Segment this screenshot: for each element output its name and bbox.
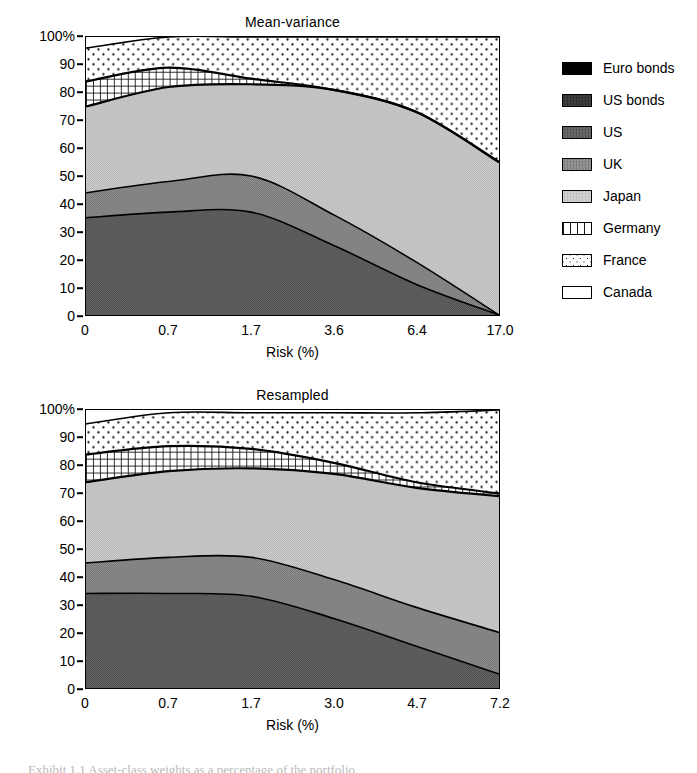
- y-tick-label: 10: [59, 280, 75, 296]
- y-tick-label: 20: [59, 252, 75, 268]
- y-tick-label: 80: [59, 457, 75, 473]
- legend-item-japan[interactable]: Japan: [562, 180, 697, 212]
- plot-area-mean-variance: [85, 36, 500, 316]
- x-axis-label-resampled: Risk (%): [85, 717, 500, 733]
- y-tick-mark: [77, 175, 83, 177]
- legend-label-france: France: [603, 252, 647, 268]
- y-tick-mark: [77, 688, 83, 690]
- legend-label-euro_bonds: Euro bonds: [603, 60, 675, 76]
- y-tick-mark: [77, 408, 83, 410]
- y-tick-mark: [77, 287, 83, 289]
- legend-label-canada: Canada: [603, 284, 652, 300]
- x-tick-label: 7.2: [490, 695, 509, 711]
- y-tick-label: 60: [59, 140, 75, 156]
- y-tick-mark: [77, 35, 83, 37]
- legend-label-japan: Japan: [603, 188, 641, 204]
- y-tick-label: 10: [59, 653, 75, 669]
- legend-swatch-france: [562, 254, 592, 267]
- legend-label-us: US: [603, 124, 622, 140]
- legend-swatch-canada: [562, 286, 592, 299]
- y-tick-mark: [77, 520, 83, 522]
- y-tick-mark: [77, 119, 83, 121]
- x-axis-mean-variance: 00.71.73.66.417.0: [85, 320, 500, 342]
- legend-item-canada[interactable]: Canada: [562, 276, 697, 308]
- y-tick-mark: [77, 632, 83, 634]
- y-tick-label: 40: [59, 196, 75, 212]
- y-tick-label: 40: [59, 569, 75, 585]
- legend-label-uk: UK: [603, 156, 622, 172]
- y-tick-label: 70: [59, 485, 75, 501]
- y-tick-mark: [77, 464, 83, 466]
- chart-mean-variance: Mean-variance 0102030405060708090100% 00…: [0, 14, 540, 379]
- x-tick-label: 6.4: [407, 322, 426, 338]
- figure-caption: Exhibit 1.1 Asset-class weights as a per…: [28, 762, 668, 773]
- legend-label-germany: Germany: [603, 220, 661, 236]
- x-tick-label: 1.7: [241, 695, 260, 711]
- legend-swatch-uk: [562, 158, 592, 171]
- legend-swatch-us: [562, 126, 592, 139]
- y-axis-mean-variance: 0102030405060708090100%: [0, 36, 83, 316]
- legend-item-uk[interactable]: UK: [562, 148, 697, 180]
- y-tick-label: 30: [59, 224, 75, 240]
- y-tick-mark: [77, 63, 83, 65]
- y-tick-label: 90: [59, 429, 75, 445]
- legend-swatch-us_bonds: [562, 94, 592, 107]
- y-tick-mark: [77, 548, 83, 550]
- chart-title-resampled: Resampled: [85, 387, 500, 407]
- x-tick-label: 3.0: [324, 695, 343, 711]
- y-tick-label: 60: [59, 513, 75, 529]
- legend-swatch-japan: [562, 190, 592, 203]
- y-tick-label: 70: [59, 112, 75, 128]
- chart-resampled: Resampled 0102030405060708090100% 00.71.…: [0, 387, 540, 752]
- y-tick-label: 0: [67, 681, 75, 697]
- plot-frame-mean-variance: [85, 36, 500, 316]
- y-tick-label: 0: [67, 308, 75, 324]
- chart-title-mean-variance: Mean-variance: [85, 14, 500, 34]
- y-tick-label: 100%: [39, 28, 75, 44]
- y-tick-mark: [77, 660, 83, 662]
- plot-area-resampled: [85, 409, 500, 689]
- y-tick-label: 30: [59, 597, 75, 613]
- plot-frame-resampled: [85, 409, 500, 689]
- x-tick-label: 0.7: [158, 322, 177, 338]
- stacked-area-svg-resampled: [86, 410, 499, 688]
- legend-label-us_bonds: US bonds: [603, 92, 664, 108]
- y-tick-mark: [77, 203, 83, 205]
- y-tick-mark: [77, 91, 83, 93]
- legend-swatch-germany: [562, 222, 592, 235]
- chart-legend: Euro bondsUS bondsUSUKJapanGermanyFrance…: [562, 52, 697, 308]
- y-tick-label: 100%: [39, 401, 75, 417]
- y-tick-mark: [77, 315, 83, 317]
- x-tick-label: 0: [81, 322, 89, 338]
- y-tick-mark: [77, 492, 83, 494]
- y-tick-mark: [77, 147, 83, 149]
- y-tick-mark: [77, 231, 83, 233]
- x-tick-label: 1.7: [241, 322, 260, 338]
- legend-swatch-euro_bonds: [562, 62, 592, 75]
- x-axis-label-mean-variance: Risk (%): [85, 344, 500, 360]
- stacked-area-svg-mean-variance: [86, 37, 499, 315]
- legend-item-euro_bonds[interactable]: Euro bonds: [562, 52, 697, 84]
- y-tick-mark: [77, 604, 83, 606]
- y-tick-label: 50: [59, 541, 75, 557]
- y-axis-resampled: 0102030405060708090100%: [0, 409, 83, 689]
- y-tick-label: 80: [59, 84, 75, 100]
- legend-item-germany[interactable]: Germany: [562, 212, 697, 244]
- y-tick-mark: [77, 436, 83, 438]
- legend-item-us[interactable]: US: [562, 116, 697, 148]
- y-tick-mark: [77, 576, 83, 578]
- y-tick-mark: [77, 259, 83, 261]
- x-tick-label: 17.0: [486, 322, 513, 338]
- x-axis-resampled: 00.71.73.04.77.2: [85, 693, 500, 715]
- x-tick-label: 0.7: [158, 695, 177, 711]
- y-tick-label: 20: [59, 625, 75, 641]
- x-tick-label: 4.7: [407, 695, 426, 711]
- x-tick-label: 3.6: [324, 322, 343, 338]
- y-tick-label: 90: [59, 56, 75, 72]
- y-tick-label: 50: [59, 168, 75, 184]
- legend-item-us_bonds[interactable]: US bonds: [562, 84, 697, 116]
- x-tick-label: 0: [81, 695, 89, 711]
- legend-item-france[interactable]: France: [562, 244, 697, 276]
